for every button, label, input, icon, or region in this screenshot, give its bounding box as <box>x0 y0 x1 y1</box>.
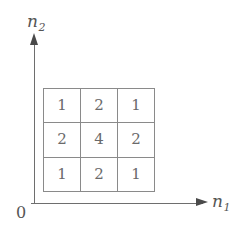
y-axis-label: n2 <box>27 13 45 30</box>
kernel-cell: 2 <box>81 89 118 123</box>
kernel-cell: 4 <box>81 123 118 157</box>
kernel-cell: 2 <box>44 123 81 157</box>
kernel-diagram-figure: n2 n1 0 1 2 1 2 4 2 1 2 1 <box>0 0 244 237</box>
y-axis-label-subscript: 2 <box>38 21 45 34</box>
kernel-cell: 1 <box>44 89 81 123</box>
arrow-right-icon <box>196 198 208 206</box>
kernel-cell: 1 <box>118 158 155 192</box>
kernel-cell: 2 <box>81 158 118 192</box>
x-axis-label-base: n <box>212 191 223 211</box>
x-axis-line <box>31 203 203 204</box>
kernel-grid: 1 2 1 2 4 2 1 2 1 <box>43 88 155 192</box>
x-axis-label: n1 <box>212 193 230 210</box>
origin-label: 0 <box>16 205 26 221</box>
kernel-cell: 1 <box>118 89 155 123</box>
x-axis-label-subscript: 1 <box>223 201 230 214</box>
arrow-up-icon <box>30 33 38 45</box>
y-axis-line <box>34 44 35 204</box>
kernel-cell: 2 <box>118 123 155 157</box>
y-axis-label-base: n <box>27 11 38 31</box>
kernel-cell: 1 <box>44 158 81 192</box>
